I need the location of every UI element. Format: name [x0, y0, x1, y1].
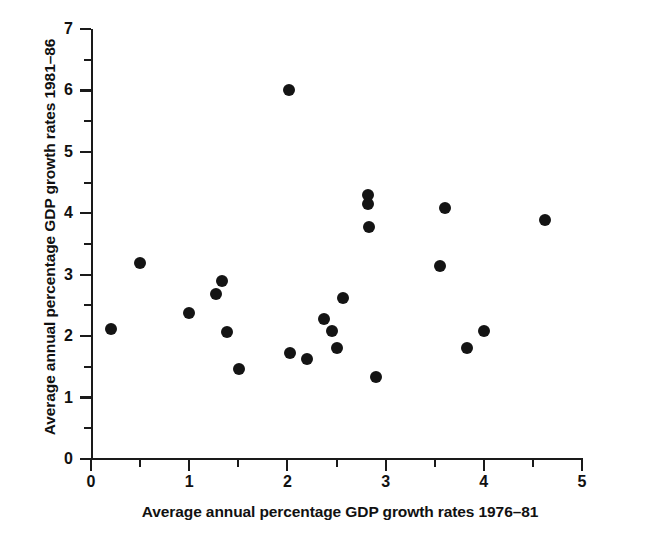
scatter-point	[370, 371, 382, 383]
y-tick-1	[80, 396, 91, 398]
y-tick-7	[80, 28, 91, 30]
scatter-point	[362, 198, 374, 210]
scatter-point	[539, 214, 551, 226]
x-tick-4	[483, 460, 485, 471]
x-tick-label-3: 3	[371, 474, 401, 490]
y-tick-label-1: 1	[47, 390, 73, 406]
scatter-point	[183, 307, 195, 319]
y-tick-label-2: 2	[47, 328, 73, 344]
y-tick-4	[80, 212, 91, 214]
y-tick-6	[80, 89, 91, 91]
scatter-point	[434, 260, 446, 272]
scatter-point	[337, 292, 349, 304]
y-minor-tick	[84, 59, 91, 61]
x-tick-5	[581, 460, 583, 471]
y-tick-2	[80, 335, 91, 337]
x-tick-1	[188, 460, 190, 471]
x-tick-label-5: 5	[567, 474, 597, 490]
scatter-point	[221, 326, 233, 338]
scatter-point	[134, 257, 146, 269]
y-minor-tick	[84, 243, 91, 245]
y-tick-label-6: 6	[47, 82, 73, 98]
y-minor-tick	[84, 120, 91, 122]
scatter-point	[461, 342, 473, 354]
y-tick-3	[80, 274, 91, 276]
x-minor-tick	[336, 460, 338, 467]
y-tick-label-7: 7	[47, 21, 73, 37]
scatter-point	[233, 363, 245, 375]
y-tick-5	[80, 151, 91, 153]
x-tick-2	[286, 460, 288, 471]
scatter-point	[284, 347, 296, 359]
x-tick-3	[385, 460, 387, 471]
y-tick-label-5: 5	[47, 144, 73, 160]
scatter-point	[216, 275, 228, 287]
scatter-point	[301, 353, 313, 365]
x-minor-tick	[532, 460, 534, 467]
y-tick-label-4: 4	[47, 205, 73, 221]
y-axis-line	[91, 29, 93, 460]
scatter-point	[105, 323, 117, 335]
scatter-point	[439, 202, 451, 214]
scatter-point	[362, 189, 374, 201]
y-minor-tick	[84, 366, 91, 368]
scatter-point	[210, 288, 222, 300]
scatter-points-layer	[0, 0, 649, 542]
x-tick-0	[90, 460, 92, 471]
x-tick-label-2: 2	[272, 474, 302, 490]
x-tick-label-1: 1	[174, 474, 204, 490]
y-minor-tick	[84, 427, 91, 429]
x-axis-title: Average annual percentage GDP growth rat…	[70, 503, 610, 521]
scatter-point	[478, 325, 490, 337]
x-tick-label-0: 0	[76, 474, 106, 490]
y-tick-label-0: 0	[47, 451, 73, 467]
x-minor-tick	[237, 460, 239, 467]
x-minor-tick	[434, 460, 436, 467]
scatter-point	[326, 325, 338, 337]
scatter-point	[318, 313, 330, 325]
scatter-point	[331, 342, 343, 354]
y-minor-tick	[84, 304, 91, 306]
y-tick-label-3: 3	[47, 267, 73, 283]
y-minor-tick	[84, 182, 91, 184]
scatter-point	[283, 84, 295, 96]
scatter-chart-figure: Average annual percentage GDP growth rat…	[0, 0, 649, 542]
scatter-point	[363, 221, 375, 233]
x-minor-tick	[139, 460, 141, 467]
x-tick-label-4: 4	[469, 474, 499, 490]
